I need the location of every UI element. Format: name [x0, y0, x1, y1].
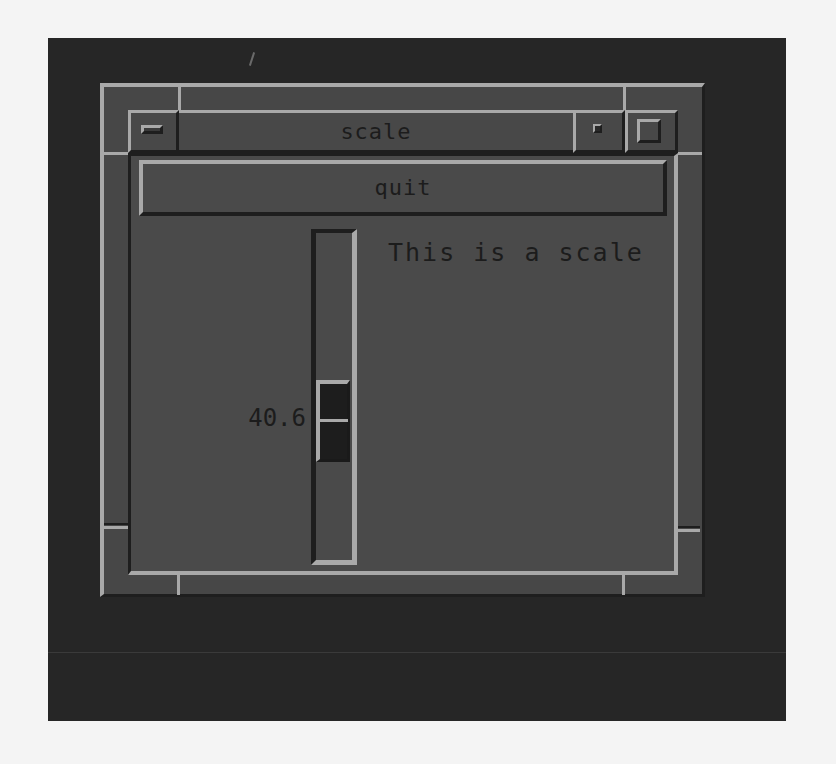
maximize-icon	[637, 119, 661, 143]
scale-value: 40.6	[226, 402, 306, 434]
resize-corner-left-lower-tick[interactable]	[104, 526, 128, 529]
client-area	[128, 153, 678, 575]
resize-corner-right-lower-tick[interactable]	[678, 529, 700, 532]
maximize-button[interactable]	[625, 110, 678, 153]
scale-thumb-center-line	[318, 419, 348, 422]
resize-corner-top-left-tick[interactable]	[178, 84, 181, 110]
window-title: scale	[180, 113, 572, 150]
scale-label: This is a scale	[388, 236, 668, 270]
resize-corner-bottom-right-tick[interactable]	[622, 575, 625, 595]
minimize-button[interactable]	[573, 110, 625, 153]
resize-corner-right-lower-shadow	[678, 526, 700, 528]
resize-corner-left-lower-shadow	[104, 523, 128, 525]
window-menu-icon	[141, 125, 163, 134]
resize-corner-left-upper-tick[interactable]	[104, 152, 128, 155]
minimize-icon	[593, 124, 602, 133]
scanline-artifact	[48, 652, 786, 653]
resize-corner-right-upper-tick[interactable]	[678, 152, 702, 155]
quit-button[interactable]: quit	[139, 160, 667, 216]
resize-corner-top-right-tick[interactable]	[623, 84, 626, 110]
resize-corner-bottom-left-tick[interactable]	[177, 575, 180, 595]
window-menu-button[interactable]	[128, 110, 179, 153]
